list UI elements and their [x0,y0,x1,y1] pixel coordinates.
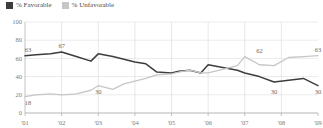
plot-svg: 020406080100 6367303018306263 '01'02'03'… [0,18,323,128]
favorability-line-chart: % Favorable % Unfavorable 020406080100 6… [0,0,323,128]
legend-label-favorable: % Favorable [16,1,52,10]
x-tick-label: '04 [131,119,139,126]
x-tick-label: '07 [241,119,249,126]
vertical-gridlines [62,22,282,113]
x-tick-label: '06 [204,119,212,126]
plot-area: 020406080100 6367303018306263 '01'02'03'… [0,18,323,128]
y-tick-label: 40 [16,73,23,80]
square-swatch-icon [62,2,69,9]
y-tick-label: 100 [12,18,22,25]
x-tick-label: '02 [58,119,66,126]
x-tick-label: '09 [314,119,322,126]
data-point-label: 63 [315,46,322,53]
legend-item-unfavorable[interactable]: % Unfavorable [62,1,115,10]
data-point-label: 30 [315,88,322,95]
x-axis-ticks: '01'02'03'04'05'06'07'08'09 [21,113,322,126]
data-point-label: 18 [25,99,32,106]
data-point-label: 30 [271,88,278,95]
x-tick-label: '01 [21,119,29,126]
x-tick-label: '05 [168,119,176,126]
legend-label-unfavorable: % Unfavorable [72,1,115,10]
legend-item-favorable[interactable]: % Favorable [6,1,52,10]
data-point-label: 62 [256,47,263,54]
y-tick-label: 20 [16,91,23,98]
y-tick-label: 80 [16,36,23,43]
x-tick-label: '03 [94,119,102,126]
y-tick-label: 60 [16,55,23,62]
data-point-label: 67 [58,42,65,49]
chart-legend: % Favorable % Unfavorable [6,1,114,10]
data-point-label: 30 [95,88,102,95]
y-tick-label: 0 [19,109,22,116]
x-tick-label: '08 [278,119,286,126]
square-swatch-icon [6,2,13,9]
y-axis-ticks: 020406080100 [12,18,22,116]
data-point-label: 63 [25,46,32,53]
